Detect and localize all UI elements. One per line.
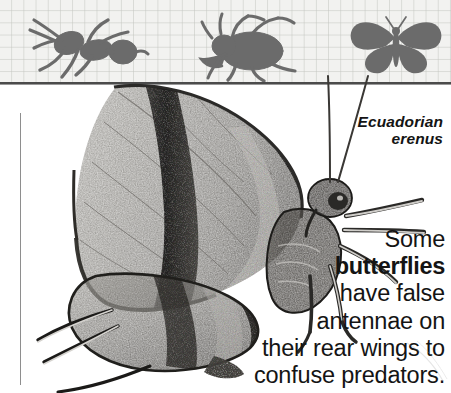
caption-line-4: antennae on <box>210 308 445 335</box>
figure-page: Ecuadorian erenus Some butterflies have … <box>0 0 451 393</box>
corner-scuff-mark <box>403 339 449 385</box>
caption-line-2-keyword: butterflies <box>210 253 445 280</box>
caption-line-1: Some <box>210 226 445 253</box>
caption-line-3: have false <box>210 280 445 307</box>
species-name-label: Ecuadorian erenus <box>233 113 443 147</box>
